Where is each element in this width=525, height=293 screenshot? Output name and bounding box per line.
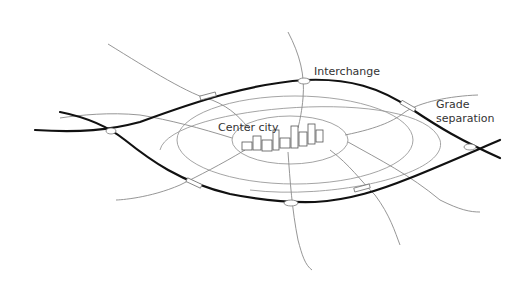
interchange-node-left xyxy=(106,128,116,134)
interchange-node-right xyxy=(464,144,476,150)
ring-road-diagram: Center city Interchange Grade separation xyxy=(0,0,525,293)
grade-separation-label-line2: separation xyxy=(436,112,495,125)
building xyxy=(316,130,323,142)
interchange-node-top xyxy=(298,78,310,84)
radial-road-s xyxy=(288,152,312,270)
building xyxy=(299,132,307,146)
interchange-node-bottom xyxy=(284,200,298,206)
building xyxy=(242,142,252,150)
radial-road-w xyxy=(60,114,232,138)
building xyxy=(308,124,315,144)
grade-separation-label-line1: Grade xyxy=(436,98,470,111)
building xyxy=(262,140,272,151)
interchange-label: Interchange xyxy=(314,65,380,78)
radial-road-nw xyxy=(108,44,250,130)
building xyxy=(253,136,261,150)
grade-separation-sw xyxy=(186,178,202,188)
building xyxy=(280,138,290,148)
radial-road-se xyxy=(330,150,400,245)
center-city-label: Center city xyxy=(218,121,279,134)
building xyxy=(291,126,298,148)
